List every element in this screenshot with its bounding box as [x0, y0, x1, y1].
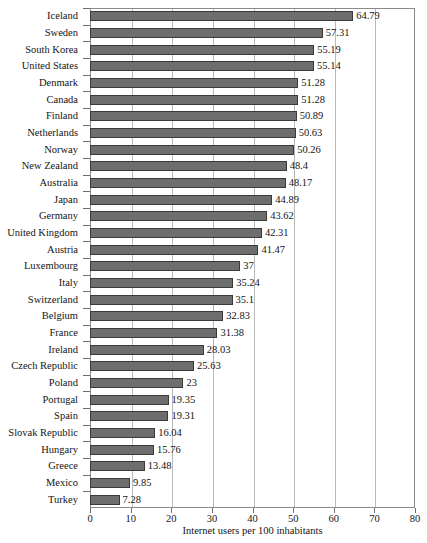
bar[interactable] — [90, 328, 217, 338]
category-label: Turkey — [48, 495, 78, 506]
category-label: New Zealand — [22, 161, 78, 172]
bar[interactable] — [90, 161, 287, 171]
bar[interactable] — [90, 395, 169, 405]
bar[interactable] — [90, 445, 154, 455]
y-axis-tick — [83, 8, 90, 9]
y-axis-tick — [83, 175, 90, 176]
category-label: Sweden — [45, 28, 78, 39]
bar[interactable] — [90, 178, 286, 188]
bar-value-label: 37 — [243, 261, 254, 272]
bar[interactable] — [90, 495, 120, 505]
bar-value-label: 64.79 — [356, 11, 380, 22]
bar[interactable] — [90, 11, 353, 21]
category-label: South Korea — [25, 45, 78, 56]
category-label: Denmark — [39, 78, 78, 89]
bar-value-label: 25.63 — [197, 361, 221, 372]
bar-value-label: 31.38 — [220, 328, 244, 339]
bar[interactable] — [90, 311, 223, 321]
bar[interactable] — [90, 145, 294, 155]
bar[interactable] — [90, 378, 183, 388]
category-label: Belgium — [42, 311, 78, 322]
bar-value-label: 55.19 — [317, 45, 341, 56]
x-axis-tick-label: 20 — [166, 514, 177, 525]
y-axis-tick — [83, 108, 90, 109]
bar[interactable] — [90, 411, 168, 421]
x-axis-tick-label: 30 — [207, 514, 218, 525]
bar[interactable] — [90, 261, 240, 271]
bar-value-label: 43.62 — [270, 211, 294, 222]
bar-value-label: 15.76 — [157, 445, 181, 456]
bar-value-label: 50.63 — [299, 128, 323, 139]
bar-value-label: 50.26 — [297, 145, 321, 156]
bar[interactable] — [90, 461, 145, 471]
y-axis-tick — [83, 341, 90, 342]
bar[interactable] — [90, 45, 314, 55]
bar-value-label: 19.35 — [172, 395, 196, 406]
y-axis-tick — [83, 241, 90, 242]
bar[interactable] — [90, 245, 258, 255]
y-axis-tick — [83, 158, 90, 159]
y-axis-tick — [83, 225, 90, 226]
bar-value-label: 48.4 — [290, 161, 308, 172]
category-label: Iceland — [47, 11, 78, 22]
bar-value-label: 35.24 — [236, 278, 260, 289]
x-axis-tick-label: 70 — [369, 514, 380, 525]
bar-value-label: 41.47 — [261, 245, 285, 256]
category-label: Japan — [54, 195, 78, 206]
bar[interactable] — [90, 28, 323, 38]
bar[interactable] — [90, 345, 204, 355]
bar[interactable] — [90, 361, 194, 371]
y-axis-tick — [83, 258, 90, 259]
y-axis-tick — [83, 41, 90, 42]
category-label: Luxembourg — [24, 261, 78, 272]
bar-value-label: 13.48 — [148, 461, 172, 472]
bar[interactable] — [90, 195, 272, 205]
bar[interactable] — [90, 95, 298, 105]
bar-value-label: 44.89 — [275, 195, 299, 206]
bar-value-label: 51.28 — [301, 95, 325, 106]
y-axis-tick — [83, 375, 90, 376]
bar-value-label: 28.03 — [207, 345, 231, 356]
category-label: Czech Republic — [11, 361, 78, 372]
bar[interactable] — [90, 78, 298, 88]
category-label: Hungary — [41, 445, 78, 456]
bar-value-label: 51.28 — [301, 78, 325, 89]
y-axis-tick — [83, 441, 90, 442]
x-axis-tick-label: 50 — [288, 514, 299, 525]
bar[interactable] — [90, 478, 130, 488]
bar-value-label: 23 — [186, 378, 197, 389]
y-axis-tick — [83, 75, 90, 76]
bar-chart: 64.7957.3155.1955.1451.2851.2850.8950.63… — [0, 0, 427, 543]
x-axis-tick-label: 0 — [87, 514, 92, 525]
category-label: Italy — [59, 278, 78, 289]
y-axis-tick — [83, 325, 90, 326]
bar[interactable] — [90, 61, 314, 71]
bar[interactable] — [90, 111, 297, 121]
bar[interactable] — [90, 295, 233, 305]
bar[interactable] — [90, 428, 155, 438]
y-axis-tick — [83, 125, 90, 126]
bar[interactable] — [90, 211, 267, 221]
bar-value-label: 42.31 — [265, 228, 289, 239]
y-axis-tick — [83, 408, 90, 409]
y-axis-tick — [83, 58, 90, 59]
category-label: Australia — [40, 178, 79, 189]
bar-value-label: 7.28 — [123, 495, 141, 506]
category-label: Poland — [49, 378, 78, 389]
category-label: Portugal — [42, 395, 78, 406]
y-axis-tick — [83, 425, 90, 426]
y-axis-tick — [83, 391, 90, 392]
bar[interactable] — [90, 128, 296, 138]
category-label: Netherlands — [27, 128, 78, 139]
y-axis-tick — [83, 208, 90, 209]
category-label: Germany — [39, 211, 78, 222]
y-axis-tick — [83, 458, 90, 459]
category-label: Canada — [47, 95, 79, 106]
category-label: Switzerland — [28, 295, 78, 306]
category-label: United Kingdom — [7, 228, 78, 239]
category-label: Ireland — [48, 345, 78, 356]
bar[interactable] — [90, 278, 233, 288]
bar-value-label: 32.83 — [226, 311, 250, 322]
y-axis-tick — [83, 358, 90, 359]
bar[interactable] — [90, 228, 262, 238]
